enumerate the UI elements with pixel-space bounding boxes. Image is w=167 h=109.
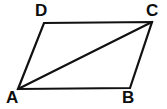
vertex-label-c: C	[146, 2, 158, 19]
vertex-label-d: D	[35, 2, 47, 19]
parallelogram-svg	[0, 0, 167, 109]
geometry-figure: D C A B	[0, 0, 167, 109]
vertex-label-b: B	[122, 89, 134, 106]
vertex-label-a: A	[6, 89, 18, 106]
